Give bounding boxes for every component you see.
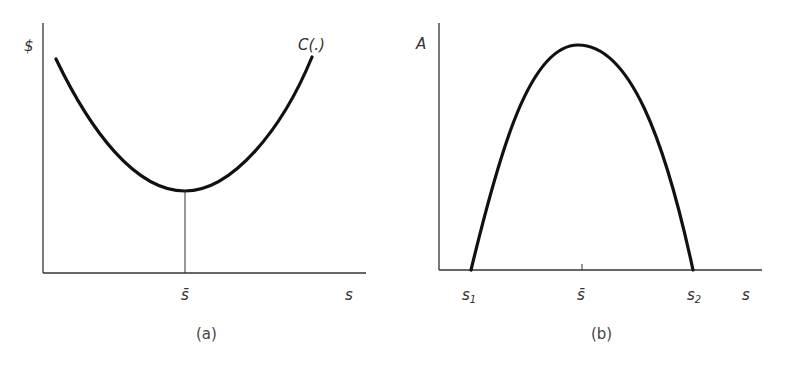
- panel-b: A s1 s̄ s2 s (b): [415, 23, 762, 343]
- panel-b-sbar-label: s̄: [577, 286, 585, 304]
- panel-b-x-label: s: [742, 286, 750, 304]
- panel-b-s2-label: s2: [687, 286, 701, 305]
- panel-a-x-label: s: [345, 286, 353, 304]
- panel-b-s1-label: s1: [462, 286, 476, 305]
- panel-b-y-label: A: [415, 35, 426, 53]
- panel-a-sbar-label: s̄: [181, 286, 189, 304]
- panel-a-y-label: $: [24, 37, 34, 55]
- panel-a-caption: (a): [196, 325, 217, 343]
- figure: $ C(.) s̄ s (a) A s1 s̄ s2 s (b): [0, 0, 785, 365]
- panel-b-A-curve: [471, 45, 693, 270]
- panel-b-caption: (b): [591, 325, 612, 343]
- panel-a-curve-label: C(.): [298, 36, 325, 54]
- panel-a-cost-curve: [56, 57, 312, 191]
- panel-a: $ C(.) s̄ s (a): [24, 23, 366, 343]
